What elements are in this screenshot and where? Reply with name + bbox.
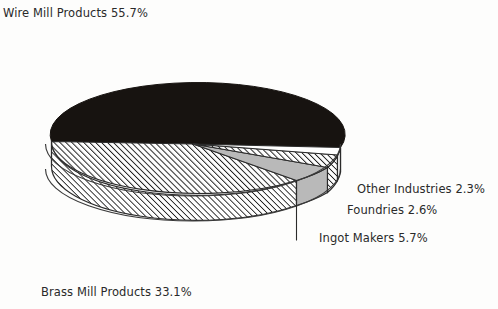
slice-label-ingot-makers: Ingot Makers 5.7%: [319, 231, 428, 245]
slice-label-brass-mill-products: Brass Mill Products 33.1%: [41, 285, 192, 299]
pie-top-face: [50, 83, 345, 194]
slice-wire-mill-products[interactable]: [50, 83, 345, 148]
slice-label-wire-mill-products: Wire Mill Products 55.7%: [3, 6, 148, 20]
slice-label-other-industries: Other Industries 2.3%: [357, 182, 485, 196]
pie-chart-canvas: [0, 0, 498, 309]
pie-chart-figure: Wire Mill Products 55.7% Brass Mill Prod…: [0, 0, 498, 309]
slice-label-foundries: Foundries 2.6%: [347, 203, 437, 217]
